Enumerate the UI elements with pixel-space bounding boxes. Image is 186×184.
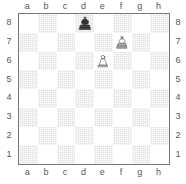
rank-label-5-left: 5 [0,69,18,88]
square-b3[interactable] [38,108,57,127]
white-king-icon[interactable] [114,34,130,50]
file-label-e-top: e [93,0,112,13]
square-h6[interactable] [150,52,169,71]
square-a8[interactable] [19,14,38,33]
square-d3[interactable] [75,108,94,127]
square-d4[interactable] [75,89,94,108]
square-f4[interactable] [113,89,132,108]
file-label-d-bottom: d [74,166,93,180]
square-b5[interactable] [38,70,57,89]
square-d5[interactable] [75,70,94,89]
square-c2[interactable] [57,127,76,146]
square-f1[interactable] [113,145,132,164]
square-e5[interactable] [94,70,113,89]
rank-label-7-right: 7 [170,32,186,51]
square-e2[interactable] [94,127,113,146]
square-g8[interactable] [132,14,151,33]
square-f7[interactable] [113,33,132,52]
square-c8[interactable] [57,14,76,33]
rank-label-7-left: 7 [0,32,18,51]
rank-label-1-left: 1 [0,144,18,163]
square-b7[interactable] [38,33,57,52]
square-h8[interactable] [150,14,169,33]
square-d1[interactable] [75,145,94,164]
square-c3[interactable] [57,108,76,127]
rank-labels-left: 8 7 6 5 4 3 2 1 [0,13,18,163]
square-f5[interactable] [113,70,132,89]
file-label-h-top: h [149,0,168,13]
square-h5[interactable] [150,70,169,89]
square-a3[interactable] [19,108,38,127]
square-e4[interactable] [94,89,113,108]
square-h2[interactable] [150,127,169,146]
file-label-b-bottom: b [37,166,56,180]
chess-board-diagram: a b c d e f g h 8 7 6 5 4 3 2 1 8 7 6 5 … [0,0,186,184]
square-c4[interactable] [57,89,76,108]
file-label-c-top: c [56,0,75,13]
square-g4[interactable] [132,89,151,108]
square-c1[interactable] [57,145,76,164]
file-label-d-top: d [74,0,93,13]
square-d8[interactable] [75,14,94,33]
square-e7[interactable] [94,33,113,52]
square-b2[interactable] [38,127,57,146]
square-a1[interactable] [19,145,38,164]
file-label-f-bottom: f [112,166,131,180]
square-g2[interactable] [132,127,151,146]
rank-label-5-right: 5 [170,69,186,88]
square-d7[interactable] [75,33,94,52]
square-b8[interactable] [38,14,57,33]
file-label-b-top: b [37,0,56,13]
square-f3[interactable] [113,108,132,127]
file-label-h-bottom: h [149,166,168,180]
square-g3[interactable] [132,108,151,127]
rank-label-6-left: 6 [0,51,18,70]
square-a7[interactable] [19,33,38,52]
square-b6[interactable] [38,52,57,71]
square-c7[interactable] [57,33,76,52]
square-h4[interactable] [150,89,169,108]
white-pawn-icon[interactable] [95,53,111,69]
square-g5[interactable] [132,70,151,89]
square-d6[interactable] [75,52,94,71]
square-a5[interactable] [19,70,38,89]
square-f6[interactable] [113,52,132,71]
rank-label-3-left: 3 [0,107,18,126]
file-labels-top: a b c d e f g h [18,0,168,13]
chess-board[interactable] [18,13,170,165]
square-h7[interactable] [150,33,169,52]
square-e6[interactable] [94,52,113,71]
square-f2[interactable] [113,127,132,146]
file-label-a-bottom: a [18,166,37,180]
square-e3[interactable] [94,108,113,127]
square-c6[interactable] [57,52,76,71]
rank-label-3-right: 3 [170,107,186,126]
black-king-icon[interactable] [77,15,93,31]
square-g6[interactable] [132,52,151,71]
square-g7[interactable] [132,33,151,52]
rank-label-1-right: 1 [170,144,186,163]
square-h1[interactable] [150,145,169,164]
rank-label-2-left: 2 [0,126,18,145]
file-labels-bottom: a b c d e f g h [18,166,168,180]
square-f8[interactable] [113,14,132,33]
file-label-e-bottom: e [93,166,112,180]
square-e1[interactable] [94,145,113,164]
square-a4[interactable] [19,89,38,108]
file-label-a-top: a [18,0,37,13]
rank-label-4-right: 4 [170,88,186,107]
file-label-g-bottom: g [131,166,150,180]
file-label-c-bottom: c [56,166,75,180]
file-label-g-top: g [131,0,150,13]
rank-label-2-right: 2 [170,126,186,145]
square-a6[interactable] [19,52,38,71]
square-g1[interactable] [132,145,151,164]
square-a2[interactable] [19,127,38,146]
square-d2[interactable] [75,127,94,146]
square-h3[interactable] [150,108,169,127]
square-b1[interactable] [38,145,57,164]
rank-label-6-right: 6 [170,51,186,70]
square-b4[interactable] [38,89,57,108]
square-c5[interactable] [57,70,76,89]
square-e8[interactable] [94,14,113,33]
